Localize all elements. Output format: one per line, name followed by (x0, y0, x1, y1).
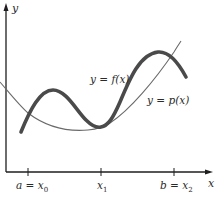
interpolation-diagram: y x a = x0 x1 b = x2 y = f(x) y = p(x) (0, 0, 218, 202)
tick-label-x1: x1 (97, 179, 107, 194)
curve-f (21, 52, 186, 132)
label-p: y = p(x) (146, 94, 189, 106)
label-f: y = f(x) (89, 73, 129, 85)
y-axis-arrow-icon (4, 3, 9, 11)
y-axis: y (4, 2, 20, 172)
tick-label-x2: b = x2 (160, 179, 193, 194)
tick-label-x0: a = x0 (16, 179, 48, 194)
y-axis-label: y (11, 2, 19, 15)
x-axis-arrow-icon (205, 170, 213, 175)
x-axis-label: x (208, 177, 215, 190)
